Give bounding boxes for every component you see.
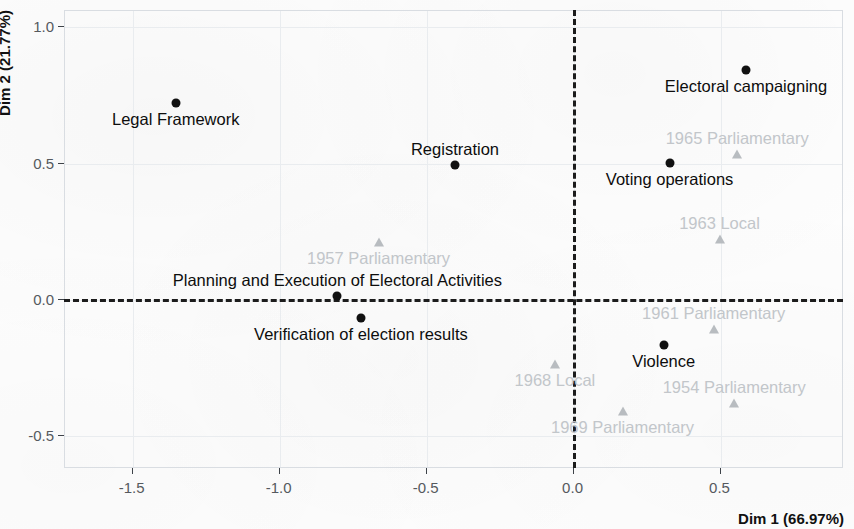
point-label-1-4: 1968 Local: [515, 372, 596, 389]
gridline-horizontal-3: [65, 27, 842, 28]
gridline-vertical-2: [427, 11, 428, 467]
point-marker-circle-0-2: [741, 65, 750, 74]
point-label-0-3: Voting operations: [606, 171, 734, 188]
x-tick-label-4: 0.5: [709, 479, 730, 496]
point-label-1-0: 1957 Parliamentary: [307, 250, 450, 267]
point-marker-triangle-1-2: [715, 235, 725, 244]
point-marker-circle-0-5: [356, 314, 365, 323]
x-tick-mark-4: [720, 468, 721, 474]
point-label-0-5: Verification of election results: [254, 326, 468, 343]
point-label-1-5: 1954 Parliamentary: [663, 379, 806, 396]
point-marker-triangle-1-6: [618, 406, 628, 415]
x-tick-label-3: 0.0: [562, 479, 583, 496]
point-marker-circle-0-3: [665, 158, 674, 167]
x-tick-mark-3: [573, 468, 574, 474]
gridline-horizontal-1: [65, 300, 842, 301]
point-label-0-1: Registration: [411, 141, 499, 158]
y-tick-mark-1: [58, 299, 64, 300]
y-tick-label-2: 0.5: [33, 154, 54, 171]
point-label-0-4: Planning and Execution of Electoral Acti…: [173, 272, 502, 289]
y-tick-mark-2: [58, 163, 64, 164]
x-tick-label-2: -0.5: [413, 479, 439, 496]
point-marker-triangle-1-3: [709, 324, 719, 333]
point-label-0-2: Electoral campaigning: [665, 78, 827, 95]
point-label-1-6: 1969 Parliamentary: [551, 419, 694, 436]
correspondence-analysis-plot: -1.5-1.0-0.50.00.5-0.50.00.51.0 Legal Fr…: [0, 0, 854, 529]
y-tick-label-1: 0.0: [33, 290, 54, 307]
point-marker-triangle-1-1: [732, 150, 742, 159]
gridline-vertical-1: [280, 11, 281, 467]
y-tick-mark-0: [58, 435, 64, 436]
point-marker-triangle-1-5: [729, 398, 739, 407]
point-label-0-6: Violence: [632, 353, 695, 370]
point-marker-circle-0-0: [171, 98, 180, 107]
x-tick-mark-1: [279, 468, 280, 474]
x-axis-label: Dim 1 (66.97%): [738, 510, 844, 527]
gridline-horizontal-0: [65, 436, 842, 437]
gridline-vertical-0: [133, 11, 134, 467]
x-tick-mark-2: [426, 468, 427, 474]
point-marker-triangle-1-4: [550, 360, 560, 369]
point-marker-circle-0-6: [659, 341, 668, 350]
y-axis-label: Dim 2 (21.77%): [0, 10, 13, 116]
point-marker-circle-0-4: [333, 292, 342, 301]
gridline-vertical-3: [574, 11, 575, 467]
point-label-0-0: Legal Framework: [112, 111, 239, 128]
x-tick-label-1: -1.0: [266, 479, 292, 496]
point-label-1-1: 1965 Parliamentary: [666, 130, 809, 147]
point-marker-triangle-1-0: [374, 237, 384, 246]
y-tick-label-3: 1.0: [33, 18, 54, 35]
point-label-1-2: 1963 Local: [679, 215, 760, 232]
x-tick-label-0: -1.5: [119, 479, 145, 496]
point-marker-circle-0-1: [450, 161, 459, 170]
point-label-1-3: 1961 Parliamentary: [642, 305, 785, 322]
x-tick-mark-0: [132, 468, 133, 474]
y-tick-label-0: -0.5: [28, 427, 54, 444]
y-tick-mark-3: [58, 26, 64, 27]
